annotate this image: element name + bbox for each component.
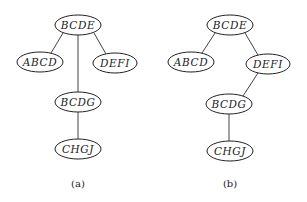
diagram-b: BCDEABCDDEFIBCDGCHGJ(b) bbox=[168, 15, 290, 189]
node-defi: DEFI bbox=[246, 54, 290, 74]
edge-bcde-defi bbox=[245, 33, 258, 55]
node-bcde: BCDE bbox=[207, 15, 253, 35]
edge-bcde-abcd bbox=[51, 33, 63, 53]
node-label: ABCD bbox=[173, 56, 208, 68]
node-label: BCDG bbox=[59, 96, 95, 108]
node-abcd: ABCD bbox=[17, 52, 63, 72]
node-label: BCDE bbox=[60, 19, 95, 31]
node-chgj: CHGJ bbox=[55, 139, 101, 159]
node-label: BCDG bbox=[210, 98, 246, 110]
node-chgj: CHGJ bbox=[207, 141, 253, 161]
caption-b: (b) bbox=[223, 178, 237, 189]
node-label: DEFI bbox=[252, 58, 283, 70]
caption-a: (a) bbox=[71, 178, 85, 189]
edge-bcde-defi bbox=[94, 33, 106, 54]
node-label: CHGJ bbox=[214, 145, 246, 157]
edge-defi-bcdg bbox=[243, 73, 258, 96]
node-defi: DEFI bbox=[93, 53, 137, 73]
diagram-a: BCDEABCDDEFIBCDGCHGJ(a) bbox=[17, 15, 137, 189]
node-label: BCDE bbox=[212, 19, 247, 31]
node-label: ABCD bbox=[22, 56, 57, 68]
node-label: DEFI bbox=[99, 57, 130, 69]
node-bcdg: BCDG bbox=[55, 92, 101, 112]
junction-tree-figure: BCDEABCDDEFIBCDGCHGJ(a) BCDEABCDDEFIBCDG… bbox=[0, 0, 307, 202]
edge-bcde-abcd bbox=[202, 33, 215, 53]
node-abcd: ABCD bbox=[168, 52, 214, 72]
node-label: CHGJ bbox=[62, 143, 94, 155]
node-bcde: BCDE bbox=[55, 15, 101, 35]
node-bcdg: BCDG bbox=[206, 94, 252, 114]
